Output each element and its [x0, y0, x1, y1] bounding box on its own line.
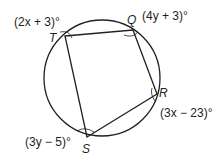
circle	[44, 20, 160, 136]
vertex-label-S: S	[82, 142, 90, 156]
angle-arc-R	[151, 88, 155, 101]
angle-label-Q: (4y + 3)°	[142, 9, 188, 23]
vertex-label-T: T	[49, 31, 58, 45]
vertex-label-R: R	[159, 86, 168, 100]
quadrilateral-TQRS	[65, 30, 157, 137]
angle-label-R: (3x − 23)°	[160, 106, 213, 120]
angle-label-T: (2x + 3)°	[14, 15, 60, 29]
angle-label-S: (3y − 5)°	[25, 135, 71, 149]
inscribed-quadrilateral-diagram: T Q R S (2x + 3)° (4y + 3)° (3x − 23)° (…	[0, 0, 221, 160]
vertex-label-Q: Q	[127, 13, 136, 27]
